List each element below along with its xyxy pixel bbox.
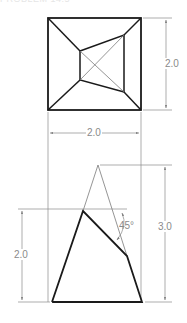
dim-label-cut-height: 2.0 (13, 249, 29, 260)
corner-edge-tl (48, 18, 80, 51)
inner-quad (80, 35, 124, 92)
corner-edge-bl (48, 80, 80, 110)
dim-label-total-height: 3.0 (157, 221, 173, 232)
thin-edge-left (83, 165, 98, 211)
top-view-dimensions (50, 18, 172, 133)
orthographic-drawing (0, 0, 187, 323)
top-view (48, 18, 141, 110)
front-view (52, 165, 142, 302)
corner-edge-tr (124, 18, 141, 35)
dim-label-top-height: 2.0 (164, 58, 180, 69)
dim-label-top-width: 2.0 (86, 127, 102, 138)
corner-edge-br (124, 92, 141, 110)
dim-label-cut-angle: 45° (118, 220, 135, 231)
front-view-dimensions (18, 165, 172, 302)
